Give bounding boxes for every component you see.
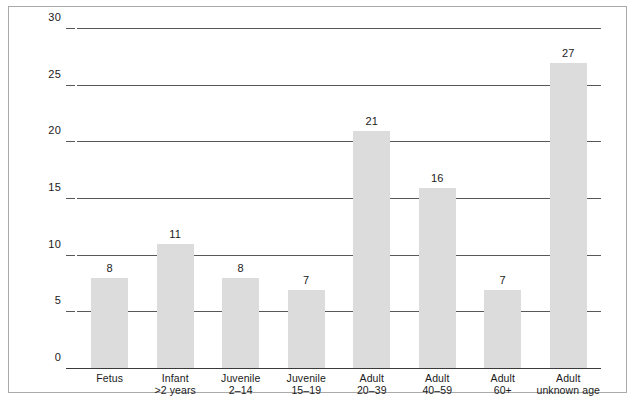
y-axis-tick-mark [66, 85, 75, 86]
x-axis-category-label: Adult40–59 [405, 372, 471, 396]
y-axis-tick-mark [66, 28, 75, 29]
x-axis-category-label: Infant>2 years [143, 372, 209, 396]
bar-value-label: 7 [500, 274, 506, 286]
y-axis-tick-mark [66, 255, 75, 256]
x-axis-category-label-line: Juvenile [208, 372, 274, 384]
x-axis-line [66, 368, 601, 369]
bar-slot: 27 [536, 29, 602, 369]
bar[interactable]: 7 [484, 290, 521, 369]
bar[interactable]: 8 [91, 278, 128, 369]
x-axis-category-label: Adult60+ [470, 372, 536, 396]
bar-value-label: 21 [365, 115, 378, 127]
x-axis-category-label-line: 15–19 [274, 384, 340, 396]
bars-group: 811872116727 [77, 29, 601, 369]
bar[interactable]: 11 [157, 244, 194, 369]
x-axis-category-label-line: Infant [143, 372, 209, 384]
bar[interactable]: 27 [550, 63, 587, 369]
x-axis-category-label-line: 2–14 [208, 384, 274, 396]
bar-value-label: 8 [238, 262, 244, 274]
x-axis-category-label-line: Juvenile [274, 372, 340, 384]
chart-frame: 051015202530 811872116727 FetusInfant>2 … [8, 6, 627, 393]
bar[interactable]: 16 [419, 188, 456, 369]
y-axis-tick-label: 10 [48, 238, 61, 250]
bar-slot: 11 [143, 29, 209, 369]
y-axis-tick-label: 0 [55, 351, 61, 363]
x-axis-labels: FetusInfant>2 yearsJuvenile2–14Juvenile1… [77, 372, 601, 396]
bar[interactable]: 7 [288, 290, 325, 369]
x-axis-category-label-line: >2 years [143, 384, 209, 396]
bar-value-label: 11 [169, 228, 181, 240]
y-axis-tick-label: 30 [48, 11, 61, 23]
bar-slot: 8 [208, 29, 274, 369]
bar-slot: 7 [470, 29, 536, 369]
bar-value-label: 16 [431, 172, 444, 184]
bar-slot: 8 [77, 29, 143, 369]
y-axis-tick-mark [66, 198, 75, 199]
y-axis-tick-label: 25 [48, 68, 61, 80]
bar-value-label: 8 [107, 262, 113, 274]
bar-value-label: 27 [562, 47, 575, 59]
y-axis-tick-mark [66, 141, 75, 142]
x-axis-category-label-line: 40–59 [405, 384, 471, 396]
x-axis-category-label-line: unknown age [536, 384, 602, 396]
x-axis-category-label-line: Adult [339, 372, 405, 384]
chart-page: 051015202530 811872116727 FetusInfant>2 … [0, 0, 636, 401]
bar[interactable]: 21 [353, 131, 390, 369]
x-axis-category-label: Juvenile15–19 [274, 372, 340, 396]
bar-slot: 21 [339, 29, 405, 369]
x-axis-category-label-line: 20–39 [339, 384, 405, 396]
x-axis-category-label-line: Fetus [77, 372, 143, 384]
x-axis-category-label: Fetus [77, 372, 143, 396]
y-axis-tick-mark [66, 311, 75, 312]
bar-slot: 7 [274, 29, 340, 369]
y-axis-tick-label: 5 [55, 294, 61, 306]
x-axis-category-label-line: Adult [536, 372, 602, 384]
x-axis-category-label-line: Adult [405, 372, 471, 384]
bar-slot: 16 [405, 29, 471, 369]
bar[interactable]: 8 [222, 278, 259, 369]
bar-value-label: 7 [303, 274, 309, 286]
x-axis-category-label: Adult20–39 [339, 372, 405, 396]
x-axis-category-label-line: 60+ [470, 384, 536, 396]
y-axis-tick-label: 15 [48, 181, 61, 193]
x-axis-category-label: Juvenile2–14 [208, 372, 274, 396]
x-axis-category-label-line: Adult [470, 372, 536, 384]
x-axis-category-label: Adultunknown age [536, 372, 602, 396]
y-axis-tick-label: 20 [48, 124, 61, 136]
plot-area: 051015202530 811872116727 [77, 29, 601, 369]
